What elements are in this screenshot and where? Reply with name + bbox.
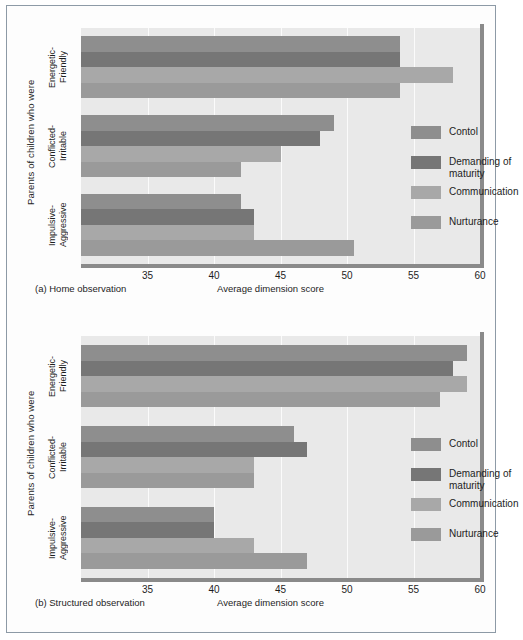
panel-a-category-label-impulsive-aggressive: Impulsive- Aggressive (47, 191, 68, 259)
x-axis-rule (81, 578, 484, 582)
legend-label: Demanding of maturity (449, 156, 511, 179)
bar-b-conflicted-irritable-contol (81, 426, 294, 442)
x-tick-label-35: 35 (142, 584, 153, 595)
x-tick-label-50: 50 (341, 270, 352, 281)
legend-label: Communication (449, 498, 518, 510)
legend-label: Nurturance (449, 216, 498, 228)
panel-a-category-label-conflicted-irritable: Conflicted- Irritable (47, 112, 68, 180)
panel-a-plot-area: ContolDemanding of maturityCommunication… (81, 28, 480, 264)
x-tick-label-60: 60 (474, 584, 485, 595)
legend-swatch-icon (411, 216, 441, 229)
x-tick-label-45: 45 (275, 270, 286, 281)
legend-label: Demanding of maturity (449, 468, 511, 491)
legend-swatch-icon (411, 468, 441, 481)
panel-a-y-axis-title: Parents of children who were (25, 36, 36, 248)
panel-a-category-label-energetic-friendly: Energetic- Friendly (47, 33, 68, 101)
bar-a-conflicted-irritable-contol (81, 115, 334, 131)
legend-item-communication[interactable]: Communication (411, 186, 518, 199)
panel-home-observation: Parents of children who were Energetic- … (7, 10, 497, 315)
legend-swatch-icon (411, 156, 441, 169)
bar-b-energetic-friendly-contol (81, 345, 467, 361)
x-tick-label-40: 40 (208, 270, 219, 281)
legend-swatch-icon (411, 186, 441, 199)
panel-b-x-axis-title: Average dimension score (217, 597, 324, 608)
bar-a-energetic-friendly-communication (81, 67, 453, 83)
legend-swatch-icon (411, 438, 441, 451)
bar-a-conflicted-irritable-demanding-of-maturity (81, 131, 320, 147)
legend-label: Contol (449, 126, 478, 138)
x-tick-label-40: 40 (208, 584, 219, 595)
legend-item-demanding-of-maturity[interactable]: Demanding of maturity (411, 468, 511, 491)
bar-a-impulsive-aggressive-demanding-of-maturity (81, 209, 254, 225)
bar-b-impulsive-aggressive-contol (81, 507, 214, 523)
bar-a-conflicted-irritable-nurturance (81, 162, 241, 178)
legend-swatch-icon (411, 498, 441, 511)
x-tick-label-45: 45 (275, 584, 286, 595)
bar-a-impulsive-aggressive-nurturance (81, 240, 354, 256)
x-tick-label-50: 50 (341, 584, 352, 595)
bar-b-energetic-friendly-nurturance (81, 392, 440, 408)
panel-structured-observation: Parents of children who were Energetic- … (7, 318, 497, 630)
bar-b-impulsive-aggressive-demanding-of-maturity (81, 522, 214, 538)
panel-a-caption: (a) Home observation (35, 283, 126, 294)
bar-b-impulsive-aggressive-nurturance (81, 553, 307, 569)
bar-a-energetic-friendly-demanding-of-maturity (81, 52, 400, 68)
panel-b-plot-area: ContolDemanding of maturityCommunication… (81, 336, 480, 578)
x-tick-label-55: 55 (408, 270, 419, 281)
legend-item-demanding-of-maturity[interactable]: Demanding of maturity (411, 156, 511, 179)
x-tick-label-55: 55 (408, 584, 419, 595)
bar-a-energetic-friendly-nurturance (81, 83, 400, 99)
bar-b-energetic-friendly-communication (81, 376, 467, 392)
x-tick-label-60: 60 (474, 270, 485, 281)
x-axis-rule (81, 264, 484, 268)
panel-a-x-axis-title: Average dimension score (217, 283, 324, 294)
x-tick-label-35: 35 (142, 270, 153, 281)
legend-item-nurturance[interactable]: Nurturance (411, 216, 498, 229)
legend-label: Nurturance (449, 528, 498, 540)
figure-container: Parents of children who were Energetic- … (6, 5, 496, 633)
panel-b-category-label-energetic-friendly: Energetic- Friendly (47, 342, 68, 410)
panel-b-caption: (b) Structured observation (35, 597, 145, 608)
bar-b-conflicted-irritable-demanding-of-maturity (81, 442, 307, 458)
legend-label: Contol (449, 438, 478, 450)
bar-b-conflicted-irritable-communication (81, 457, 254, 473)
legend-swatch-icon (411, 126, 441, 139)
right-axis-rule (480, 24, 484, 268)
panel-b-category-label-conflicted-irritable: Conflicted- Irritable (47, 423, 68, 491)
legend-item-communication[interactable]: Communication (411, 498, 518, 511)
legend-item-nurturance[interactable]: Nurturance (411, 528, 498, 541)
bar-a-energetic-friendly-contol (81, 36, 400, 52)
right-axis-rule (480, 332, 484, 582)
panel-b-y-axis-title: Parents of children who were (25, 344, 36, 562)
bar-b-conflicted-irritable-nurturance (81, 473, 254, 489)
legend-swatch-icon (411, 528, 441, 541)
bar-a-impulsive-aggressive-communication (81, 225, 254, 241)
bar-b-impulsive-aggressive-communication (81, 538, 254, 554)
legend-item-contol[interactable]: Contol (411, 126, 478, 139)
bar-a-impulsive-aggressive-contol (81, 194, 241, 210)
legend-item-contol[interactable]: Contol (411, 438, 478, 451)
panel-b-category-label-impulsive-aggressive: Impulsive- Aggressive (47, 504, 68, 572)
legend-label: Communication (449, 186, 518, 198)
bar-b-energetic-friendly-demanding-of-maturity (81, 361, 453, 377)
bar-a-conflicted-irritable-communication (81, 146, 281, 162)
